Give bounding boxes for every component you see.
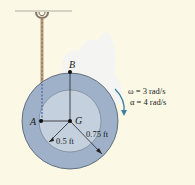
label-g: G	[75, 115, 82, 126]
point-a	[39, 119, 43, 123]
label-a: A	[29, 116, 37, 127]
omega-label: ω = 3 rad/s	[128, 86, 166, 96]
disk-diagram: B A G 0.5 ft 0.75 ft ω = 3 rad/s α = 4 r…	[0, 0, 195, 185]
point-g	[68, 119, 72, 123]
inner-radius-label: 0.5 ft	[56, 136, 75, 146]
alpha-label: α = 4 rad/s	[130, 97, 166, 107]
hook-icon	[36, 12, 48, 18]
outer-radius-label: 0.75 ft	[86, 129, 109, 139]
label-b: B	[69, 59, 75, 70]
point-b	[68, 70, 72, 74]
